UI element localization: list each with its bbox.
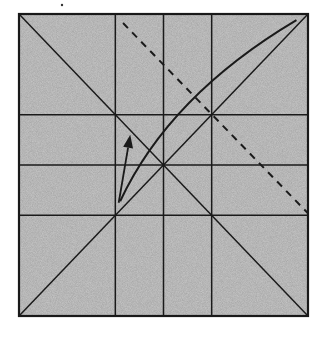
crease-lines <box>19 14 308 316</box>
origami-diagram <box>0 0 323 349</box>
reference-dot <box>61 4 63 6</box>
